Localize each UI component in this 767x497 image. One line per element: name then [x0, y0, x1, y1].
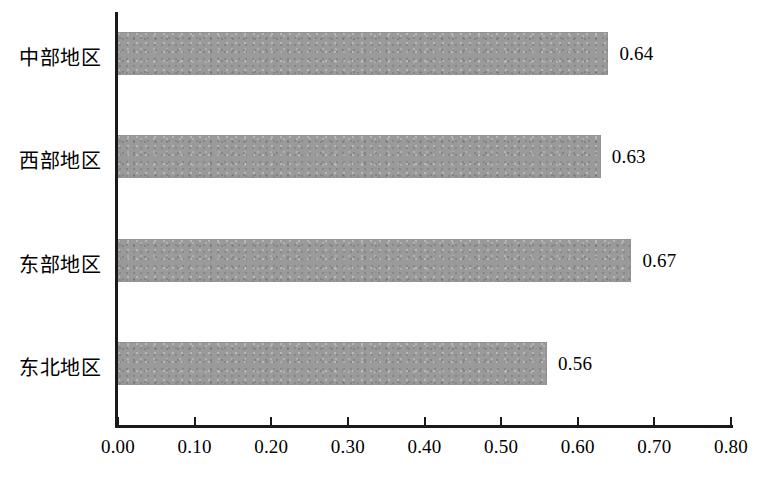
bar [118, 135, 601, 178]
x-axis-tick [500, 417, 502, 425]
category-label: 中部地区 [8, 42, 112, 71]
x-axis-tick-label: 0.70 [619, 436, 689, 458]
x-axis-tick [730, 417, 732, 425]
x-axis-tick-label: 0.10 [160, 436, 230, 458]
value-label: 0.56 [558, 353, 592, 374]
bar [118, 32, 608, 75]
x-axis-tick [424, 417, 426, 425]
x-axis-tick [117, 417, 119, 425]
x-axis-tick-label: 0.60 [543, 436, 613, 458]
x-axis-tick-label: 0.30 [313, 436, 383, 458]
x-axis-tick [194, 417, 196, 425]
x-axis-tick-label: 0.00 [83, 436, 153, 458]
x-axis-tick-label: 0.20 [236, 436, 306, 458]
value-label: 0.64 [619, 43, 653, 64]
value-label: 0.67 [642, 250, 676, 271]
x-axis-line [115, 425, 733, 428]
x-axis-tick [347, 417, 349, 425]
x-axis-tick-label: 0.50 [466, 436, 536, 458]
bar-chart: 0.000.100.200.300.400.500.600.700.80 中部地… [0, 0, 767, 497]
x-axis-tick [270, 417, 272, 425]
bar [118, 342, 547, 385]
x-axis-tick [577, 417, 579, 425]
category-label: 东北地区 [8, 352, 112, 381]
value-label: 0.63 [612, 146, 646, 167]
category-label: 东部地区 [8, 249, 112, 278]
bar [118, 239, 631, 282]
x-axis-tick [653, 417, 655, 425]
x-axis-tick-label: 0.40 [390, 436, 460, 458]
category-label: 西部地区 [8, 145, 112, 174]
x-axis-tick-label: 0.80 [696, 436, 766, 458]
